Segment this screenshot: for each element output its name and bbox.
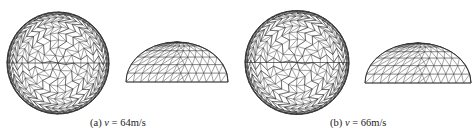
dome-top-view-mesh bbox=[6, 10, 110, 116]
panel-a: (a) v = 64m/s bbox=[0, 0, 240, 135]
dome-side-view-mesh bbox=[363, 39, 473, 85]
dome-side-view-mesh bbox=[124, 38, 230, 84]
panel-b: (b) v = 66m/s bbox=[240, 0, 473, 135]
figure: (a) v = 64m/s (b) v = 66m/s bbox=[0, 0, 473, 135]
caption-a: (a) v = 64m/s bbox=[90, 117, 146, 128]
dome-top-view-mesh bbox=[244, 9, 350, 116]
caption-b: (b) v = 66m/s bbox=[330, 117, 386, 128]
